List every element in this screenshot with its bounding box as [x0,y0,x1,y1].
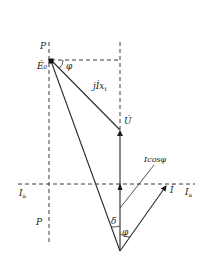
u-label: U̇ [124,115,132,126]
phi-top-label: φ [66,61,73,71]
p-top-label: P [39,41,47,51]
icosphi-leader-line [120,165,154,208]
jixt-label-main: jİx [91,80,104,91]
jixt-label: jİxt [91,80,107,92]
p-bottom-label: P [35,217,43,227]
i-phasor [120,186,166,251]
e0-phasor [51,61,120,251]
delta-label: δ [111,216,116,226]
i-label: İ [169,184,174,195]
e0-label: Ė₀ [36,60,48,71]
phi-top-angle-arc [60,60,64,68]
e0-point-marker [49,59,54,64]
icosphi-label: Icosφ [143,155,167,164]
jixt-phasor [53,62,120,130]
ia-left-label: Ia [18,188,27,199]
phi-bottom-label: φ [122,227,129,237]
ia-right-label: Ia [184,187,193,198]
jixt-label-sub: t [104,85,107,92]
e0-label-text: Ė₀ [36,60,48,71]
ia-left-sub: a [23,192,27,199]
delta-angle-arc [111,226,120,227]
ia-right-sub: a [189,191,193,198]
phasor-diagram: P Ė₀ φ jİxt U̇ Icosφ Ia İ Ia P δ φ [0,0,207,265]
